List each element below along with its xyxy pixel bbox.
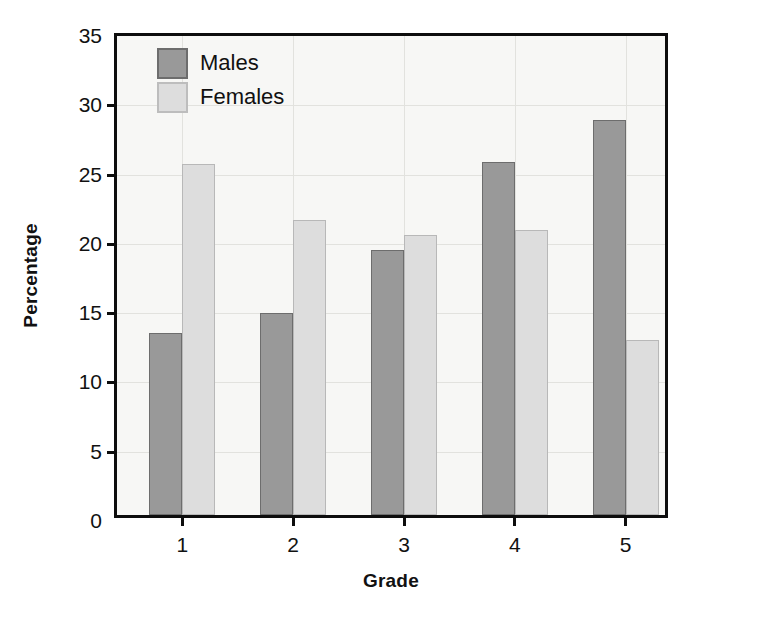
legend-item-females: Females (157, 80, 284, 114)
x-tick-label: 5 (620, 533, 632, 557)
bar-chart-figure: Percentage Grade 05101520253035 12345 Ma… (0, 0, 770, 621)
y-tick-label: 10 (79, 370, 102, 394)
y-tick-label: 0 (90, 509, 102, 533)
chart-legend: Males Females (157, 46, 284, 114)
y-tick-mark (107, 312, 117, 315)
y-tick-label: 15 (79, 301, 102, 325)
bar-males-grade-4 (482, 162, 515, 515)
legend-label-males: Males (200, 50, 259, 76)
y-tick-mark (107, 381, 117, 384)
bar-females-grade-4 (515, 230, 548, 515)
bar-males-grade-3 (371, 250, 404, 515)
x-tick-label: 1 (177, 533, 189, 557)
y-tick-mark (107, 243, 117, 246)
x-tick-mark (624, 515, 627, 526)
legend-swatch-males-icon (157, 48, 188, 79)
bar-females-grade-3 (404, 235, 437, 515)
bar-males-grade-5 (593, 120, 626, 515)
legend-item-males: Males (157, 46, 284, 80)
x-tick-mark (181, 515, 184, 526)
bar-females-grade-5 (626, 340, 659, 515)
y-tick-label: 25 (79, 163, 102, 187)
bar-males-grade-1 (149, 333, 182, 515)
x-tick-mark (513, 515, 516, 526)
y-tick-label: 35 (79, 24, 102, 48)
bar-females-grade-1 (182, 164, 215, 515)
x-tick-label: 2 (287, 533, 299, 557)
y-tick-mark (107, 174, 117, 177)
y-tick-label: 30 (79, 93, 102, 117)
plot-area: 05101520253035 12345 Males Females (114, 33, 668, 518)
y-tick-mark (107, 451, 117, 454)
y-tick-label: 20 (79, 232, 102, 256)
x-tick-mark (292, 515, 295, 526)
x-tick-mark (403, 515, 406, 526)
legend-swatch-females-icon (157, 82, 188, 113)
y-tick-label: 5 (90, 440, 102, 464)
x-tick-label: 4 (509, 533, 521, 557)
y-tick-mark (107, 104, 117, 107)
bar-females-grade-2 (293, 220, 326, 515)
y-axis-title: Percentage (14, 33, 47, 518)
bar-males-grade-2 (260, 313, 293, 515)
legend-label-females: Females (200, 84, 284, 110)
x-axis-title: Grade (114, 570, 668, 592)
x-tick-label: 3 (398, 533, 410, 557)
